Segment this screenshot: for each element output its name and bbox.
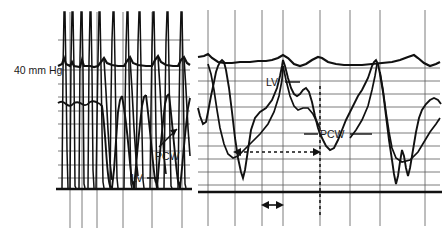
left-pcw-annotation: PCW bbox=[155, 129, 180, 162]
right-lv-label: LV bbox=[266, 76, 278, 88]
lv-spike-group-a bbox=[62, 12, 94, 188]
tracing-canvas: 40 mm Hg PCW LV bbox=[0, 0, 444, 234]
right-pcw-trace bbox=[198, 54, 440, 66]
overlay-cycle-d bbox=[380, 72, 440, 162]
right-pcw-path bbox=[198, 54, 440, 66]
right-overlay-trace bbox=[208, 64, 440, 162]
left-pcw-trace bbox=[58, 56, 190, 67]
scale-label: 40 mm Hg bbox=[14, 64, 63, 76]
left-pcw-label: PCW bbox=[155, 150, 180, 162]
overlay-cycle-c bbox=[350, 64, 377, 138]
right-panel-grid bbox=[198, 10, 440, 226]
hemodynamic-tracing-figure: 40 mm Hg PCW LV bbox=[0, 0, 444, 234]
pcw-plateau-path bbox=[58, 56, 190, 67]
right-pcw-annotation: PCW bbox=[304, 128, 372, 140]
overlay-cycle-b bbox=[283, 66, 320, 128]
lv-spike-group-c bbox=[124, 12, 144, 188]
left-lv-label: LV bbox=[131, 172, 143, 184]
solid-measure-arrow bbox=[261, 201, 284, 209]
right-pcw-label: PCW bbox=[320, 128, 345, 140]
dashed-measure-arrow bbox=[233, 148, 321, 156]
